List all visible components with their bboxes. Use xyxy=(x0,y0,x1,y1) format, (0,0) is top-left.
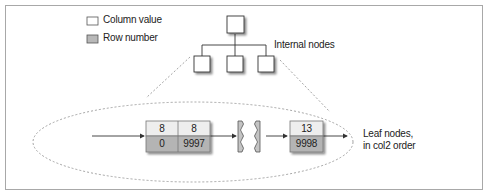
leaf-nodes-label: Leaf nodes, in col2 order xyxy=(363,128,415,152)
leaf2-cell1-column-value: 13 xyxy=(290,123,323,134)
root-node xyxy=(227,16,244,33)
leaf1-cell1-column-value: 8 xyxy=(146,123,178,134)
leaf-nodes-label-line1: Leaf nodes, xyxy=(363,128,413,139)
zoom-line-left xyxy=(146,57,190,98)
internal-nodes-tree xyxy=(202,34,266,56)
leaf1-cell2-column-value: 8 xyxy=(178,123,210,134)
leaf1-cell2-row-number: 9997 xyxy=(178,138,210,149)
leaf2-cell1-row-number: 9998 xyxy=(290,138,323,149)
legend-label-row-number: Row number xyxy=(103,32,158,43)
break-icon xyxy=(238,121,260,152)
internal-node-2 xyxy=(227,56,243,72)
internal-nodes-label: Internal nodes xyxy=(274,39,335,50)
leaf1-cell1-row-number: 0 xyxy=(146,138,178,149)
btree-diagram xyxy=(0,0,490,196)
zoom-line-right xyxy=(280,60,330,112)
legend-swatch-column-value xyxy=(87,17,98,25)
internal-node-3 xyxy=(258,56,274,72)
legend-swatch-row-number xyxy=(87,35,98,43)
leaf-nodes-label-line2: in col2 order xyxy=(363,140,415,151)
internal-node-1 xyxy=(194,56,210,72)
legend-label-column-value: Column value xyxy=(103,14,162,25)
